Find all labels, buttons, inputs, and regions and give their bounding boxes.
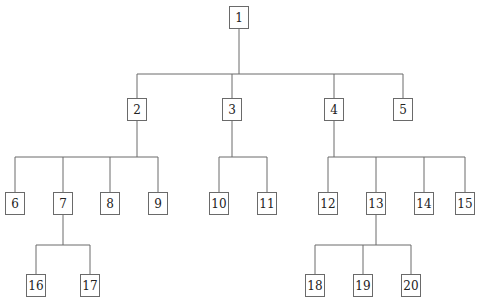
tree-node-16: 16 xyxy=(26,274,46,297)
connector-lines xyxy=(0,0,481,305)
tree-node-13: 13 xyxy=(366,192,386,215)
tree-node-1: 1 xyxy=(229,6,249,29)
tree-node-3: 3 xyxy=(222,98,242,121)
tree-diagram: 1234567891011121314151617181920 xyxy=(0,0,481,305)
tree-node-5: 5 xyxy=(393,98,413,121)
tree-node-17: 17 xyxy=(80,274,100,297)
tree-node-2: 2 xyxy=(127,98,147,121)
tree-node-8: 8 xyxy=(100,192,120,215)
tree-node-6: 6 xyxy=(5,192,25,215)
tree-node-9: 9 xyxy=(148,192,168,215)
tree-node-19: 19 xyxy=(353,274,373,297)
tree-node-11: 11 xyxy=(257,192,277,215)
tree-node-7: 7 xyxy=(53,192,73,215)
tree-node-18: 18 xyxy=(305,274,325,297)
tree-node-20: 20 xyxy=(401,274,421,297)
tree-node-12: 12 xyxy=(318,192,338,215)
tree-node-14: 14 xyxy=(414,192,434,215)
tree-node-10: 10 xyxy=(209,192,229,215)
tree-node-15: 15 xyxy=(455,192,475,215)
tree-node-4: 4 xyxy=(324,98,344,121)
